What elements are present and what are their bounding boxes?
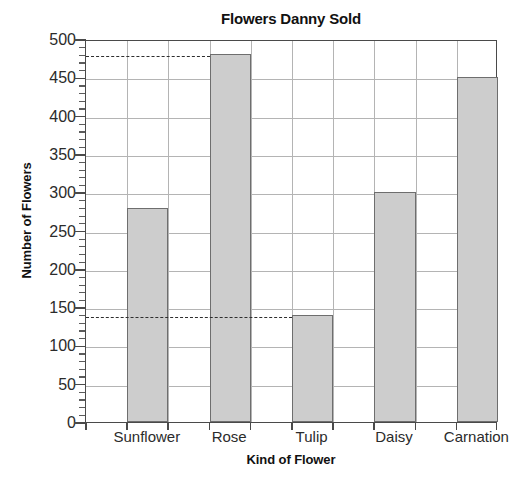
vertical-gridline bbox=[168, 41, 169, 422]
y-tick-label: 350 bbox=[30, 146, 76, 164]
y-tick-label: 0 bbox=[30, 414, 76, 432]
y-tick-label: 100 bbox=[30, 337, 76, 355]
x-tick-label-rose: Rose bbox=[212, 428, 247, 445]
y-tick-label: 400 bbox=[30, 108, 76, 126]
y-tick-label: 500 bbox=[30, 31, 76, 49]
dashed-guide-140 bbox=[86, 317, 292, 318]
chart-title: Flowers Danny Sold bbox=[85, 10, 497, 27]
horizontal-gridline bbox=[86, 79, 496, 80]
x-tick-label-daisy: Daisy bbox=[375, 428, 413, 445]
bar-carnation bbox=[457, 77, 498, 422]
y-tick-label: 250 bbox=[30, 223, 76, 241]
horizontal-gridline bbox=[86, 156, 496, 157]
vertical-gridline bbox=[416, 41, 417, 422]
y-tick-label: 300 bbox=[30, 184, 76, 202]
x-axis-tick-labels: SunflowerRoseTulipDaisyCarnation bbox=[85, 428, 497, 452]
horizontal-gridline bbox=[86, 194, 496, 195]
vertical-gridline bbox=[333, 41, 334, 422]
x-tick-label-sunflower: Sunflower bbox=[113, 428, 180, 445]
plot-area bbox=[85, 40, 497, 423]
bar-sunflower bbox=[127, 208, 168, 422]
y-tick-label: 150 bbox=[30, 299, 76, 317]
y-axis-tick-labels: 050100150200250300350400450500 bbox=[26, 40, 76, 423]
y-tick-label: 200 bbox=[30, 261, 76, 279]
horizontal-gridline bbox=[86, 118, 496, 119]
x-tick-label-tulip: Tulip bbox=[296, 428, 328, 445]
y-tick-label: 450 bbox=[30, 69, 76, 87]
bar-daisy bbox=[374, 192, 415, 422]
x-axis-title: Kind of Flower bbox=[85, 452, 497, 467]
bar-chart: Flowers Danny Sold Number of Flowers Kin… bbox=[0, 0, 530, 487]
bar-tulip bbox=[292, 315, 333, 422]
y-tick-label: 50 bbox=[30, 376, 76, 394]
vertical-gridline bbox=[251, 41, 252, 422]
bar-rose bbox=[210, 54, 251, 422]
x-tick-label-carnation: Carnation bbox=[444, 428, 509, 445]
dashed-guide-480 bbox=[86, 56, 210, 57]
